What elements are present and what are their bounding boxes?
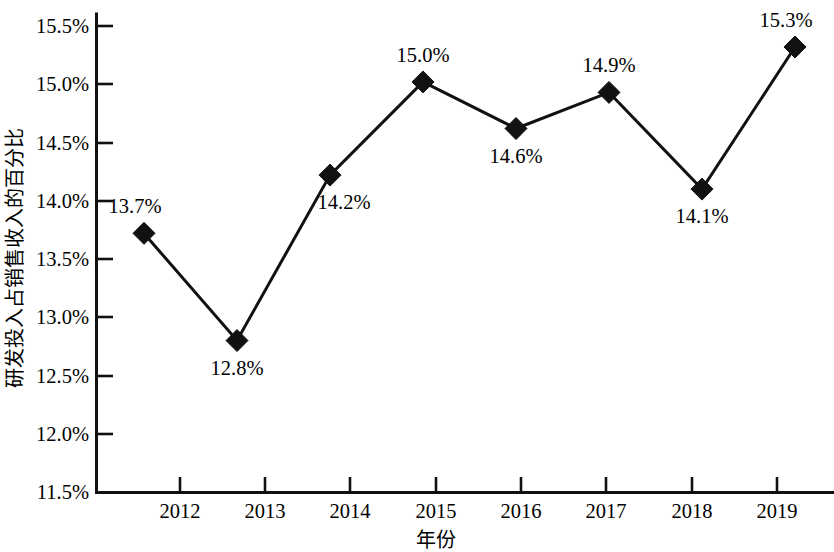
data-point-marker xyxy=(784,36,806,58)
x-tick-label: 2019 xyxy=(757,500,798,522)
data-point-label: 14.9% xyxy=(583,54,636,76)
y-tick-label: 11.5% xyxy=(37,481,89,503)
y-tick-label: 15.0% xyxy=(36,73,89,95)
chart-canvas: 15.5% 15.0% 14.5% 14.0% 13.5% 13.0% 12.5… xyxy=(0,0,834,552)
line-chart: 15.5% 15.0% 14.5% 14.0% 13.5% 13.0% 12.5… xyxy=(0,0,834,552)
x-tick-label: 2012 xyxy=(160,500,201,522)
data-point-label: 14.6% xyxy=(490,145,543,167)
x-tick-label: 2018 xyxy=(672,500,713,522)
y-tick-label: 12.0% xyxy=(36,423,89,445)
data-point-label: 15.3% xyxy=(760,9,813,31)
y-tick-label: 13.0% xyxy=(36,306,89,328)
x-tick-label: 2013 xyxy=(245,500,286,522)
axes xyxy=(97,14,834,493)
y-axis-tick-labels: 15.5% 15.0% 14.5% 14.0% 13.5% 13.0% 12.5… xyxy=(36,15,89,503)
axis-lines xyxy=(97,14,834,493)
x-tick-label: 2014 xyxy=(330,500,371,522)
y-tick-label: 15.5% xyxy=(36,15,89,37)
y-tick-label: 13.5% xyxy=(36,248,89,270)
data-point-label: 15.0% xyxy=(397,44,450,66)
data-point-label: 14.2% xyxy=(318,191,371,213)
data-point-markers xyxy=(133,36,806,352)
y-tick-label: 14.5% xyxy=(36,132,89,154)
data-point-label: 12.8% xyxy=(211,357,264,379)
data-point-marker xyxy=(505,118,527,140)
y-axis-title: 研发投入占销售收入的百分比 xyxy=(4,128,26,388)
data-point-label: 13.7% xyxy=(109,195,162,217)
y-tick-label: 14.0% xyxy=(36,190,89,212)
x-tick-label: 2015 xyxy=(416,500,457,522)
x-axis-ticks xyxy=(180,477,777,492)
x-tick-label: 2016 xyxy=(501,500,542,522)
x-axis-tick-labels: 2012 2013 2014 2015 2016 2017 2018 2019 xyxy=(160,500,798,522)
x-axis-title: 年份 xyxy=(416,529,456,551)
y-tick-label: 12.5% xyxy=(36,365,89,387)
data-point-label: 14.1% xyxy=(676,205,729,227)
y-axis-ticks xyxy=(96,26,113,434)
x-tick-label: 2017 xyxy=(586,500,627,522)
